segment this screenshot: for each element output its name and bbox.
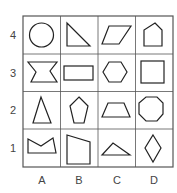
grid-svg [0, 0, 177, 193]
shape-2d-octagon-icon [139, 97, 163, 121]
shape-2b-pentagon-icon [70, 97, 88, 123]
shape-3b-rectangle-icon [64, 66, 93, 80]
shape-1c-obtuse-triangle-icon [102, 143, 130, 155]
shape-2a-triangle-icon [33, 97, 51, 123]
shape-2c-trapezoid-icon [102, 103, 130, 117]
shape-1d-rhombus-icon [145, 135, 161, 162]
shape-4b-right-triangle-icon [67, 23, 90, 46]
shape-3c-hexagon-icon [103, 62, 127, 82]
shape-4a-circle-icon [30, 23, 54, 47]
shape-1b-quadrilateral-icon [67, 135, 90, 164]
shape-4c-parallelogram-icon [102, 26, 131, 44]
shape-3d-square-icon [141, 61, 164, 83]
grid-lines [23, 16, 173, 167]
shape-1a-concave-crown-icon [28, 138, 56, 153]
shape-4d-pentagon-house-icon [144, 23, 162, 46]
shape-3a-hourglass-icon [28, 62, 57, 82]
shape-grid-diagram: 4 3 2 1 A B C D [0, 0, 177, 193]
